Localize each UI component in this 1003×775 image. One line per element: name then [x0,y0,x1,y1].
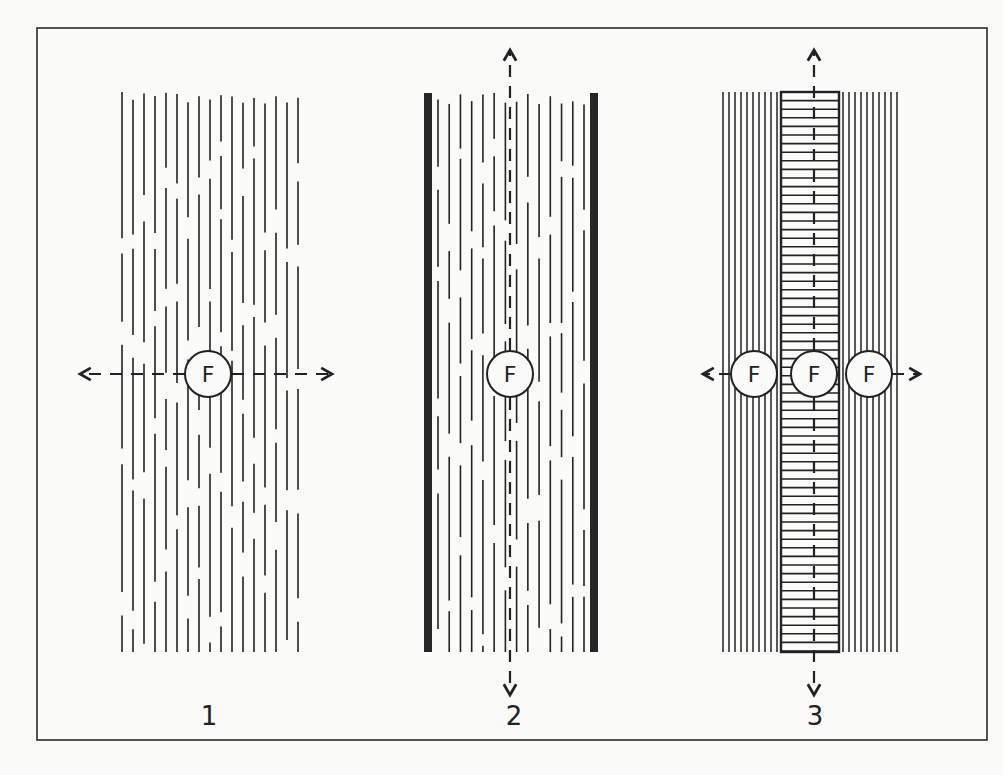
figure-canvas: F F FFF 1 2 3 [0,0,1003,775]
flow-label-f: F [748,362,761,387]
flow-label-f: F [808,362,821,387]
flow-label-f: F [863,362,876,387]
thick-wall [590,93,598,652]
thick-wall [424,93,432,652]
flow-label-f: F [202,362,215,387]
panel-label-2: 2 [506,701,523,731]
panel-2-walled-fibres: F [424,50,598,695]
flow-label-f: F [504,362,517,387]
panel-1-broken-fibres: F [80,92,332,652]
panel-label-1: 1 [201,701,218,731]
panel-3-ladder-column: FFF [703,50,920,695]
panel-label-3: 3 [807,701,824,731]
